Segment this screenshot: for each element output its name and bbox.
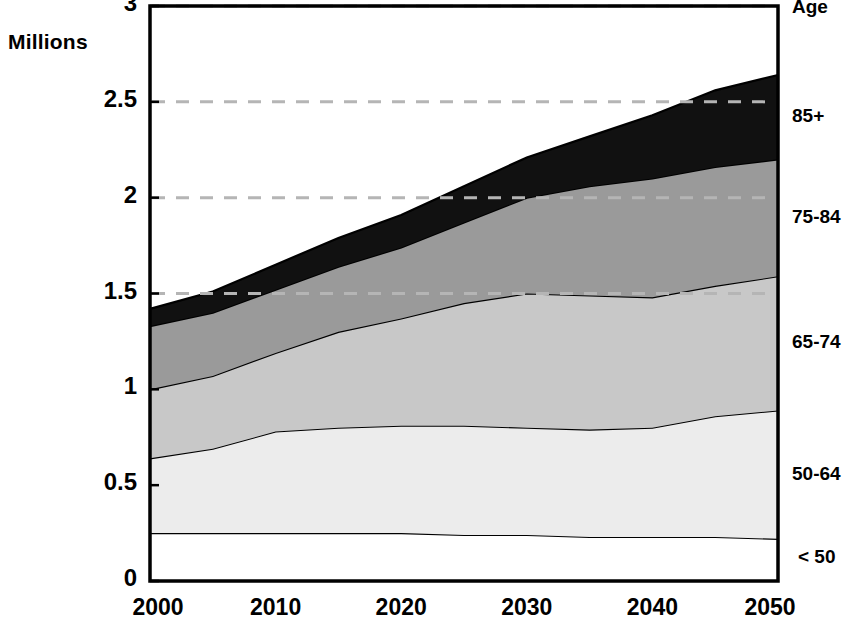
area-bands (150, 75, 778, 581)
y-axis-tick-label: 3 (55, 0, 137, 15)
x-axis-tick-label: 2020 (376, 594, 427, 621)
legend-item--50: < 50 (798, 546, 836, 568)
y-axis-tick-label: 1 (55, 374, 137, 398)
legend-header: Age (792, 0, 828, 18)
y-axis-tick-label: 2.5 (55, 87, 137, 111)
y-axis-tick-label: 0 (55, 566, 137, 590)
x-axis-tick-label: 2000 (132, 594, 183, 621)
legend-item-75-84: 75-84 (792, 206, 841, 228)
y-axis-tick-label: 0.5 (55, 470, 137, 494)
y-axis-tick-label: 1.5 (55, 279, 137, 303)
legend-item-50-64: 50-64 (792, 463, 841, 485)
chart-legend: Age85+75-8465-7450-64< 50 (792, 0, 858, 623)
x-axis-labels: 200020102020203020402050 (0, 588, 858, 623)
area-band--50 (150, 533, 778, 581)
legend-item-65-74: 65-74 (792, 331, 841, 353)
stacked-area-chart: Millions 32.521.510.50 20002010202020302… (0, 0, 858, 623)
y-axis-tick-label: 2 (55, 183, 137, 207)
x-axis-tick-label: 2030 (501, 594, 552, 621)
x-axis-tick-label: 2010 (250, 594, 301, 621)
legend-item-85-: 85+ (792, 105, 824, 127)
x-axis-tick-label: 2050 (744, 594, 795, 621)
x-axis-tick-label: 2040 (627, 594, 678, 621)
y-axis-labels: 32.521.510.50 (55, 0, 137, 623)
